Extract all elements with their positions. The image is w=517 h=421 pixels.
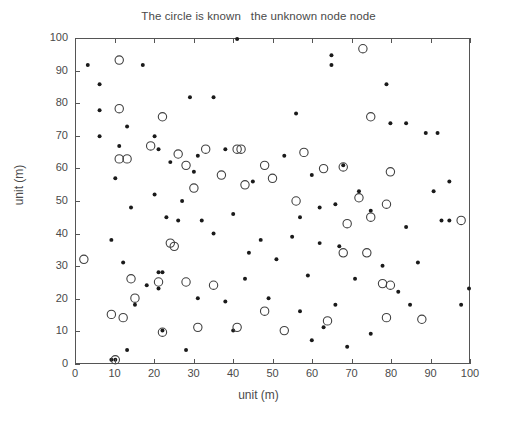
- known-node-marker: [292, 197, 300, 205]
- unknown-node-marker: [345, 345, 349, 349]
- unknown-node-marker: [125, 124, 129, 128]
- unknown-node-marker: [109, 238, 113, 242]
- unknown-node-marker: [416, 261, 420, 265]
- y-tick-label: 0: [34, 357, 68, 369]
- unknown-node-marker: [290, 235, 294, 239]
- unknown-node-marker: [176, 218, 180, 222]
- y-tick-mark: [75, 234, 80, 235]
- known-node-marker: [386, 281, 394, 289]
- x-tick-mark: [154, 359, 155, 364]
- unknown-node-marker: [467, 286, 471, 290]
- x-tick-mark-top: [391, 38, 392, 43]
- unknown-node-marker: [212, 231, 216, 235]
- y-tick-mark: [75, 266, 80, 267]
- unknown-node-marker: [157, 270, 161, 274]
- y-tick-label: 70: [34, 129, 68, 141]
- y-tick-label: 80: [34, 96, 68, 108]
- y-tick-mark: [75, 364, 80, 365]
- known-node-marker: [123, 155, 131, 163]
- series-filled-dot: [86, 37, 471, 362]
- known-node-marker: [323, 317, 331, 325]
- x-tick-mark: [273, 359, 274, 364]
- y-tick-mark: [75, 136, 80, 137]
- y-tick-label: 100: [34, 31, 68, 43]
- known-node-marker: [319, 164, 327, 172]
- unknown-node-marker: [243, 277, 247, 281]
- known-node-marker: [280, 326, 288, 334]
- known-node-marker: [119, 313, 127, 321]
- known-node-marker: [367, 213, 375, 221]
- known-node-marker: [127, 275, 135, 283]
- known-node-marker: [80, 255, 88, 263]
- unknown-node-marker: [223, 147, 227, 151]
- y-tick-label: 40: [34, 227, 68, 239]
- known-node-marker: [233, 323, 241, 331]
- unknown-node-marker: [318, 205, 322, 209]
- known-node-marker: [339, 249, 347, 257]
- unknown-node-marker: [164, 215, 168, 219]
- unknown-node-marker: [318, 241, 322, 245]
- y-tick-mark: [75, 331, 80, 332]
- unknown-node-marker: [329, 53, 333, 57]
- x-tick-mark: [233, 359, 234, 364]
- unknown-node-marker: [408, 303, 412, 307]
- unknown-node-marker: [168, 160, 172, 164]
- known-node-marker: [182, 161, 190, 169]
- unknown-node-marker: [298, 309, 302, 313]
- y-tick-label: 10: [34, 324, 68, 336]
- x-tick-mark: [391, 359, 392, 364]
- unknown-node-marker: [298, 215, 302, 219]
- unknown-node-marker: [274, 257, 278, 261]
- unknown-node-marker: [267, 296, 271, 300]
- known-node-marker: [367, 113, 375, 121]
- known-node-marker: [359, 45, 367, 53]
- unknown-node-marker: [129, 205, 133, 209]
- x-tick-mark: [115, 359, 116, 364]
- unknown-node-marker: [404, 121, 408, 125]
- y-tick-label: 30: [34, 259, 68, 271]
- x-axis-label: unit (m): [0, 388, 517, 402]
- x-tick-mark-top: [431, 38, 432, 43]
- known-node-marker: [190, 184, 198, 192]
- unknown-node-marker: [294, 112, 298, 116]
- unknown-node-marker: [282, 154, 286, 158]
- known-node-marker: [158, 113, 166, 121]
- unknown-node-marker: [432, 189, 436, 193]
- unknown-node-marker: [98, 82, 102, 86]
- known-node-marker: [260, 307, 268, 315]
- known-node-marker: [343, 220, 351, 228]
- known-node-marker: [131, 294, 139, 302]
- x-tick-mark-top: [352, 38, 353, 43]
- unknown-node-marker: [341, 163, 345, 167]
- unknown-node-marker: [369, 332, 373, 336]
- known-node-marker: [241, 181, 249, 189]
- unknown-node-marker: [180, 199, 184, 203]
- x-tick-label: 20: [134, 367, 174, 379]
- known-node-marker: [386, 168, 394, 176]
- unknown-node-marker: [212, 95, 216, 99]
- unknown-node-marker: [231, 212, 235, 216]
- unknown-node-marker: [333, 202, 337, 206]
- y-tick-mark: [75, 71, 80, 72]
- unknown-node-marker: [306, 274, 310, 278]
- known-node-marker: [146, 142, 154, 150]
- unknown-node-marker: [141, 63, 145, 67]
- unknown-node-marker: [388, 121, 392, 125]
- y-axis-label: unit (m): [12, 140, 26, 230]
- unknown-node-marker: [337, 244, 341, 248]
- unknown-node-marker: [329, 63, 333, 67]
- unknown-node-marker: [153, 193, 157, 197]
- unknown-node-marker: [145, 283, 149, 287]
- unknown-node-marker: [369, 209, 373, 213]
- unknown-node-marker: [424, 131, 428, 135]
- x-tick-mark: [431, 359, 432, 364]
- x-tick-mark-top: [470, 38, 471, 43]
- x-tick-mark-top: [194, 38, 195, 43]
- x-tick-label: 30: [174, 367, 214, 379]
- unknown-node-marker: [192, 170, 196, 174]
- y-tick-label: 90: [34, 64, 68, 76]
- unknown-node-marker: [196, 154, 200, 158]
- known-node-marker: [194, 323, 202, 331]
- unknown-node-marker: [384, 82, 388, 86]
- unknown-node-marker: [98, 134, 102, 138]
